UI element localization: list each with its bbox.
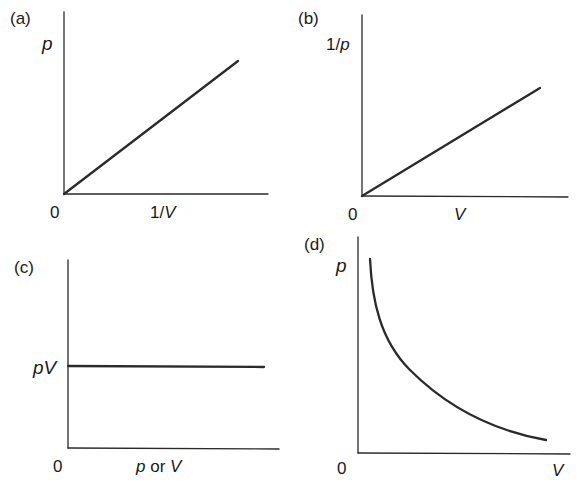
panel-b-x-axis [362, 196, 568, 197]
panel-b-y-label-var: p [340, 35, 349, 54]
panel-c-x-axis [68, 448, 279, 449]
panel-d-x-label: V [552, 462, 563, 479]
panel-c-x-label-or: or [145, 457, 170, 476]
charts-canvas [0, 0, 581, 485]
panel-a-origin-label: 0 [50, 204, 59, 221]
panel-a-x-label-prefix: 1/ [150, 203, 164, 222]
panel-c-data-line [68, 366, 264, 367]
panel-d-tag: (d) [304, 236, 325, 253]
panel-b-origin-label: 0 [348, 206, 357, 223]
panel-c-y-label: pV [33, 358, 56, 377]
panel-a-x-label: 1/V [150, 204, 176, 221]
panel-b-x-label: V [454, 206, 465, 223]
panel-c-x-label-v: V [170, 457, 181, 476]
panel-b-data-line [362, 88, 540, 196]
panel-d-origin-label: 0 [337, 460, 346, 477]
panel-a-tag: (a) [10, 10, 31, 27]
panel-b-tag: (b) [298, 10, 319, 27]
panel-c-tag: (c) [14, 259, 34, 276]
panel-c-x-label: p or V [136, 458, 181, 475]
panel-b-y-label-prefix: 1/ [326, 35, 340, 54]
panel-a-y-label: p [42, 34, 53, 53]
panel-d-y-label: p [336, 256, 347, 275]
panel-a-data-line [64, 61, 238, 194]
panel-d-x-axis [358, 453, 570, 454]
panel-d-data-curve [370, 259, 546, 440]
panel-a-x-label-var: V [164, 203, 175, 222]
panel-c-origin-label: 0 [53, 458, 62, 475]
panel-b-y-label: 1/p [326, 36, 350, 53]
